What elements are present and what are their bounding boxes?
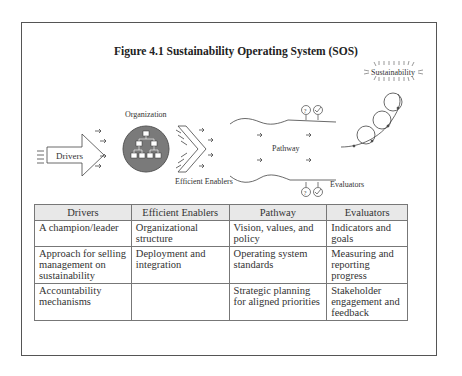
organization-label: Organization [125,110,167,119]
table-cell: Deployment and integration [131,247,229,284]
table-row: Approach for selling management on susta… [35,247,408,284]
table-cell: A champion/leader [35,221,132,247]
svg-text:?: ? [304,108,307,114]
sustainability-spiral [341,93,402,147]
table-row: Accountability mechanisms Strategic plan… [35,284,408,321]
organization-icon [123,126,169,172]
table-cell: Operating system standards [229,247,327,284]
header-drivers: Drivers [35,205,132,221]
evaluators-label: Evaluators [330,180,364,189]
table-cell: Vision, values, and policy [229,221,327,247]
table-row: A champion/leader Organizational structu… [35,221,408,247]
svg-text:?: ? [304,190,307,196]
header-efficient-enablers: Efficient Enablers [131,205,229,221]
enablers-label: Efficient Enablers [175,177,233,186]
header-pathway: Pathway [229,205,327,221]
sos-diagram: Drivers Organization Effic [0,0,462,205]
table-cell: Strategic planning for aligned prioritie… [229,284,327,321]
table-cell: Accountability mechanisms [35,284,132,321]
table-cell: Indicators and goals [327,221,408,247]
evaluator-gauges-top: ? [302,106,323,121]
sos-table: Drivers Efficient Enablers Pathway Evalu… [34,204,408,321]
sustainability-label: Sustainability [371,68,415,77]
enablers-chevron [176,126,213,172]
table-header-row: Drivers Efficient Enablers Pathway Evalu… [35,205,408,221]
table-cell [131,284,229,321]
table-cell: Approach for selling management on susta… [35,247,132,284]
table-cell: Organizational structure [131,221,229,247]
table-cell: Stakeholder engagement and feedback [327,284,408,321]
drivers-label: Drivers [56,151,83,161]
pathway-label: Pathway [272,144,300,153]
evaluator-gauges-bottom: ? [302,182,323,197]
header-evaluators: Evaluators [327,205,408,221]
table-cell: Measuring and reporting progress [327,247,408,284]
